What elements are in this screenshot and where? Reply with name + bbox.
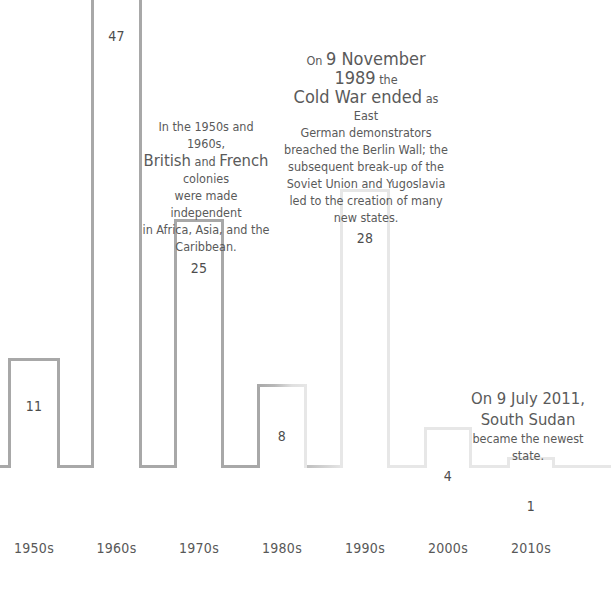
annotation-colonial-independence: In the 1950s and 1960s, British and Fren…	[140, 118, 272, 255]
annotation-emphasis-date-2011: On 9 July 2011,	[462, 388, 594, 409]
annotation-text: breached the Berlin Wall; the	[284, 142, 448, 157]
value-label-1990s: 28	[340, 231, 390, 245]
annotation-text: became the newest	[472, 431, 583, 446]
baseline-segment	[140, 465, 176, 468]
annotation-line: Soviet Union and Yugoslavia	[284, 175, 448, 192]
bar-1970s	[174, 219, 224, 468]
annotation-text: Soviet Union and Yugoslavia	[287, 176, 446, 191]
annotation-south-sudan: On 9 July 2011, South Sudan became the n…	[462, 388, 594, 464]
annotation-line: British and French colonies	[140, 152, 272, 187]
annotation-cold-war-end: On 9 November 1989 the Cold War ended as…	[284, 50, 448, 226]
x-axis-label-1960s: 1960s	[91, 540, 142, 556]
annotation-line: Caribbean.	[140, 238, 272, 255]
annotation-text: in Africa, Asia, and the	[143, 222, 270, 237]
annotation-text: and	[195, 154, 216, 169]
value-label-1970s: 25	[174, 261, 224, 275]
x-axis-label-1950s: 1950s	[8, 540, 60, 556]
x-axis-label-1990s: 1990s	[340, 540, 390, 556]
annotation-emphasis-british: British	[143, 151, 191, 170]
annotation-line: led to the creation of many	[284, 192, 448, 209]
annotation-line: state.	[462, 447, 594, 464]
annotation-text: led to the creation of many	[289, 193, 442, 208]
annotation-line: in Africa, Asia, and the	[140, 221, 272, 238]
annotation-text: state.	[512, 448, 544, 463]
decade-new-states-bar-chart: 11 47 25 8 28 4 1 1950s 1960s 1970s 1980…	[0, 0, 611, 590]
annotation-text: German demonstrators	[300, 125, 431, 140]
x-axis-label-1980s: 1980s	[257, 540, 307, 556]
annotation-text: the	[379, 72, 397, 87]
annotation-text: Caribbean.	[175, 239, 236, 254]
annotation-line: In the 1950s and 1960s,	[140, 118, 272, 152]
value-label-1960s: 47	[91, 29, 142, 43]
annotation-text: colonies	[183, 171, 229, 186]
baseline-segment	[470, 465, 510, 468]
baseline-segment	[305, 465, 343, 468]
annotation-line: Cold War ended as East	[284, 88, 448, 124]
value-label-2000s: 4	[424, 469, 472, 483]
annotation-line: were made independent	[140, 187, 272, 221]
annotation-emphasis-south-sudan: South Sudan	[462, 409, 594, 430]
annotation-line: became the newest	[462, 430, 594, 447]
annotation-line: German demonstrators	[284, 124, 448, 141]
annotation-text: subsequent break-up of the	[288, 159, 444, 174]
annotation-line: breached the Berlin Wall; the	[284, 141, 448, 158]
annotation-line: subsequent break-up of the	[284, 158, 448, 175]
baseline-segment	[58, 465, 93, 468]
baseline-segment	[553, 465, 611, 468]
annotation-line: new states.	[284, 209, 448, 226]
annotation-text: In the 1950s and 1960s,	[158, 119, 253, 151]
annotation-text: were made independent	[170, 188, 241, 220]
x-axis-label-2000s: 2000s	[424, 540, 472, 556]
value-label-2010s: 1	[507, 499, 555, 513]
x-axis-label-2010s: 2010s	[507, 540, 555, 556]
value-label-1950s: 11	[8, 399, 60, 413]
annotation-text: On	[306, 53, 322, 68]
value-label-1980s: 8	[257, 429, 307, 443]
x-axis-label-1970s: 1970s	[174, 540, 224, 556]
bar-1960s	[91, 0, 142, 468]
annotation-emphasis-date-1989: 9 November 1989	[326, 48, 426, 88]
annotation-line: On 9 November 1989 the	[284, 50, 448, 88]
baseline-segment	[222, 465, 258, 468]
baseline-segment	[388, 465, 426, 468]
annotation-emphasis-french: French	[219, 151, 268, 170]
annotation-text: new states.	[334, 210, 399, 225]
annotation-emphasis-cold-war-ended: Cold War ended	[294, 86, 423, 107]
